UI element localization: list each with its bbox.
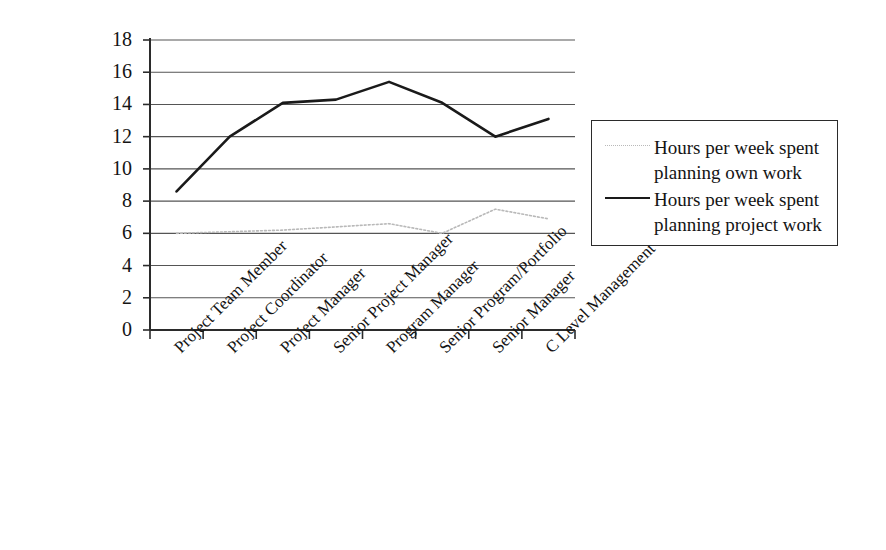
legend-label-project-work-line1: Hours per week spent xyxy=(654,187,822,212)
y-axis-tick-label: 2 xyxy=(98,287,132,307)
chart-canvas xyxy=(0,0,886,550)
y-axis-tick-label: 16 xyxy=(98,61,132,81)
legend-item-own-work: Hours per week spent planning own work xyxy=(592,135,839,185)
legend-swatch-own-work-icon xyxy=(602,135,654,157)
line-chart: 024681012141618 Project Team MemberProje… xyxy=(0,0,886,550)
series-line-own-work xyxy=(177,209,549,233)
y-axis-tick-label: 8 xyxy=(98,190,132,210)
legend-label-project-work-line2: planning project work xyxy=(654,212,822,237)
legend-item-project-work: Hours per week spent planning project wo… xyxy=(592,187,839,237)
legend-label-own-work-line2: planning own work xyxy=(654,160,819,185)
chart-legend: Hours per week spent planning own work H… xyxy=(591,120,838,246)
legend-label-own-work-line1: Hours per week spent xyxy=(654,135,819,160)
y-axis-tick-label: 14 xyxy=(98,93,132,113)
y-axis-tick-label: 4 xyxy=(98,255,132,275)
y-axis-tick-label: 0 xyxy=(98,319,132,339)
y-axis-tick-label: 12 xyxy=(98,126,132,146)
y-axis-tick-label: 18 xyxy=(98,29,132,49)
y-axis-tick-label: 10 xyxy=(98,158,132,178)
legend-swatch-project-work-icon xyxy=(602,187,654,209)
legend-label-own-work: Hours per week spent planning own work xyxy=(654,135,819,185)
legend-label-project-work: Hours per week spent planning project wo… xyxy=(654,187,822,237)
y-axis-tick-marks xyxy=(143,40,150,330)
y-axis-tick-label: 6 xyxy=(98,222,132,242)
